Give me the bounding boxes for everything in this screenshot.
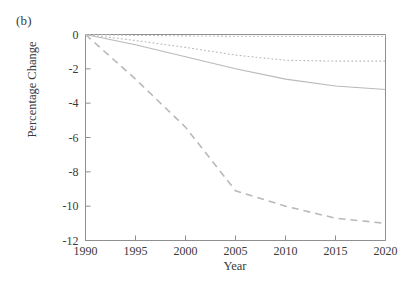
series-line-series-4 — [86, 35, 386, 224]
axes — [86, 35, 386, 241]
x-tick-label: 2020 — [374, 244, 398, 258]
x-tick-label: 1995 — [124, 244, 148, 258]
axis-frame — [86, 35, 386, 241]
data-series — [86, 35, 386, 224]
y-tick-label: 0 — [73, 28, 79, 42]
y-tick-label: -2 — [69, 62, 79, 76]
line-chart: 0-2-4-6-8-10-12 199019952000200520102015… — [0, 0, 414, 284]
y-tick-label: -10 — [63, 199, 79, 213]
y-tick-label: -8 — [69, 165, 79, 179]
y-tick-label: -6 — [69, 131, 79, 145]
x-tick-label: 1990 — [74, 244, 98, 258]
figure-panel-b: (b) Percentage Change Year 0-2-4-6-8-10-… — [0, 0, 414, 284]
x-tick-label: 2010 — [274, 244, 298, 258]
x-tick-label: 2005 — [224, 244, 248, 258]
x-axis-ticks: 1990199520002005201020152020 — [74, 236, 398, 258]
y-axis-ticks: 0-2-4-6-8-10-12 — [63, 28, 91, 248]
y-tick-label: -4 — [69, 96, 79, 110]
x-tick-label: 2015 — [324, 244, 348, 258]
x-tick-label: 2000 — [174, 244, 198, 258]
series-line-series-2 — [86, 35, 386, 62]
series-line-series-3 — [86, 35, 386, 90]
